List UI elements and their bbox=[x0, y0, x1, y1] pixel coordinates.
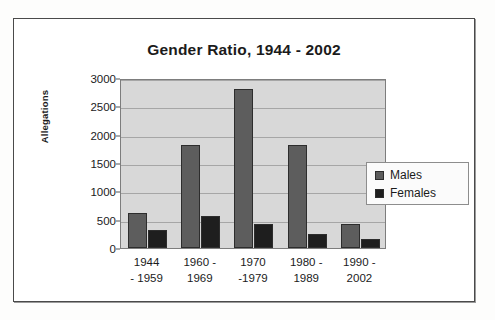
bar-females bbox=[201, 216, 220, 248]
bar-females bbox=[361, 239, 380, 248]
bar-males bbox=[341, 224, 360, 248]
legend-label: Males bbox=[390, 168, 422, 182]
y-axis-tick-label: 3000 bbox=[70, 73, 116, 85]
y-axis-tick-label: 1500 bbox=[70, 158, 116, 170]
x-axis-tick-label: 1990 -2002 bbox=[333, 254, 386, 286]
legend-swatch-females-icon bbox=[375, 189, 384, 198]
chart-legend: MalesFemales bbox=[366, 162, 469, 205]
x-label-line1: 1990 - bbox=[343, 256, 376, 268]
x-label-line1: 1944 bbox=[134, 256, 160, 268]
y-axis-tick-label: 2000 bbox=[70, 130, 116, 142]
legend-label: Females bbox=[390, 186, 436, 200]
y-axis-tick-label: 2500 bbox=[70, 101, 116, 113]
x-label-line1: 1970 bbox=[240, 256, 266, 268]
x-axis-tick-label: 1980 -1989 bbox=[280, 254, 333, 286]
chart-title: Gender Ratio, 1944 - 2002 bbox=[14, 41, 474, 59]
bar-group bbox=[121, 80, 174, 248]
plot-area bbox=[120, 79, 386, 249]
x-label-line2: -1979 bbox=[226, 270, 279, 286]
x-label-line1: 1960 - bbox=[183, 256, 216, 268]
legend-item-females: Females bbox=[375, 184, 468, 202]
y-axis-title: Allegations bbox=[39, 69, 50, 165]
bar-males bbox=[234, 89, 253, 248]
y-axis-tick-label: 500 bbox=[70, 215, 116, 227]
scanned-page: Gender Ratio, 1944 - 2002 Allegations 30… bbox=[0, 0, 495, 320]
y-axis-tick-labels: 300025002000150010005000 bbox=[66, 79, 116, 249]
x-axis-tick-label: 1944- 1959 bbox=[120, 254, 173, 286]
bar-males bbox=[181, 145, 200, 248]
legend-swatch-males-icon bbox=[375, 171, 384, 180]
chart-frame: Gender Ratio, 1944 - 2002 Allegations 30… bbox=[13, 18, 475, 302]
bar-group bbox=[281, 80, 334, 248]
x-label-line2: - 1959 bbox=[120, 270, 173, 286]
y-axis-tick-label: 1000 bbox=[70, 186, 116, 198]
bar-males bbox=[288, 145, 307, 248]
x-axis-tick-label: 1960 -1969 bbox=[173, 254, 226, 286]
x-label-line2: 1989 bbox=[280, 270, 333, 286]
x-axis-tick-label: 1970-1979 bbox=[226, 254, 279, 286]
y-axis-tick-label: 0 bbox=[70, 243, 116, 255]
bar-females bbox=[254, 224, 273, 248]
bar-females bbox=[148, 230, 167, 248]
bar-group bbox=[227, 80, 280, 248]
x-label-line2: 2002 bbox=[333, 270, 386, 286]
x-label-line1: 1980 - bbox=[290, 256, 323, 268]
legend-item-males: Males bbox=[375, 166, 468, 184]
bar-females bbox=[308, 234, 327, 248]
bar-males bbox=[128, 213, 147, 248]
x-label-line2: 1969 bbox=[173, 270, 226, 286]
x-axis-tick-labels: 1944- 19591960 -19691970-19791980 -19891… bbox=[120, 254, 386, 300]
bar-group bbox=[174, 80, 227, 248]
